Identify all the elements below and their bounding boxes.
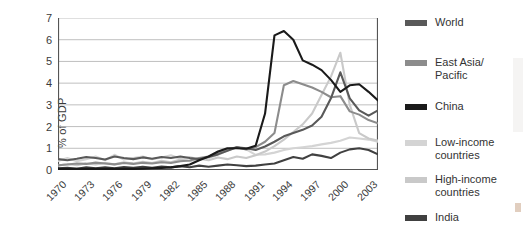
legend-item[interactable]: China [405,100,464,113]
chart-legend: WorldEast Asia/ PacificChinaLow-income c… [405,10,523,222]
y-tick-label: 6 [6,35,52,45]
plot-area: 01234567 % of GDP 1970197319761979198219… [58,18,378,170]
x-tick-label: 1973 [64,178,97,211]
x-tick-label: 1982 [149,178,182,211]
legend-swatch [405,140,427,146]
y-tick-label: 5 [6,56,52,66]
series-line-world [58,72,378,160]
scan-artifact-corner [515,203,521,212]
legend-label: China [435,100,464,113]
x-axis-tick-labels: 1970197319761979198219851988199119941997… [58,170,378,232]
legend-label: India [435,211,459,224]
y-tick-label: 2 [6,122,52,132]
legend-label: World [435,16,464,29]
y-tick-label: 4 [6,78,52,88]
chart-canvas [58,18,378,170]
axis-lines [59,18,379,170]
y-tick-label: 1 [6,143,52,153]
legend-swatch [405,215,427,221]
legend-item[interactable]: Low-income countries [405,136,494,161]
legend-item[interactable]: India [405,211,459,224]
legend-label: High-income countries [435,173,497,198]
x-tick-label: 1985 [177,178,210,211]
legend-item[interactable]: East Asia/ Pacific [405,56,484,81]
y-tick-label: 7 [6,13,52,23]
scan-artifact-right [513,58,523,132]
legend-swatch [405,20,427,26]
x-tick-label: 1997 [290,178,323,211]
x-tick-label: 1976 [92,178,125,211]
x-tick-label: 2000 [318,178,351,211]
legend-label: East Asia/ Pacific [435,56,484,81]
y-axis-tick-labels: 01234567 [6,18,52,170]
legend-swatch [405,104,427,110]
x-tick-label: 2003 [347,178,380,211]
figure-root: 01234567 % of GDP 1970197319761979198219… [0,0,523,232]
x-tick-label: 1988 [205,178,238,211]
x-tick-label: 1994 [262,178,295,211]
x-tick-label: 1979 [121,178,154,211]
x-tick-label: 1991 [234,178,267,211]
x-tick-label: 1970 [36,178,69,211]
legend-swatch [405,177,427,183]
y-tick-label: 3 [6,100,52,110]
legend-swatch [405,60,427,66]
legend-item[interactable]: World [405,16,464,29]
legend-item[interactable]: High-income countries [405,173,497,198]
y-tick-label: 0 [6,165,52,175]
legend-label: Low-income countries [435,136,494,161]
